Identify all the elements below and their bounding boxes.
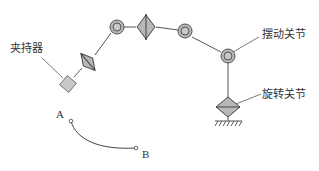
ground-icon bbox=[215, 121, 242, 126]
label-swing-joint: 摆动关节 bbox=[262, 27, 306, 41]
base-rotary-joint-icon bbox=[216, 97, 240, 117]
point-a-marker bbox=[69, 119, 73, 123]
label-gripper: 夹持器 bbox=[10, 41, 43, 55]
leader-gripper bbox=[42, 58, 63, 78]
link-gripper-wrist bbox=[74, 68, 82, 77]
label-rotary-joint: 旋转关节 bbox=[262, 87, 306, 101]
arm-links bbox=[74, 27, 228, 121]
link-diamond-joint2 bbox=[156, 27, 178, 30]
label-point-a: A bbox=[56, 108, 64, 120]
gripper-icon bbox=[60, 76, 77, 93]
rotary-joint-2-icon bbox=[137, 14, 155, 40]
label-point-b: B bbox=[142, 148, 149, 160]
swing-joint-3-icon bbox=[221, 49, 235, 63]
link-joint2-joint3 bbox=[192, 37, 221, 52]
robot-arm-diagram: 夹持器 摆动关节 旋转关节 A B bbox=[0, 0, 319, 171]
leader-swing-joint bbox=[233, 37, 259, 52]
leader-rotary-joint bbox=[236, 94, 261, 104]
trajectory-arc bbox=[69, 119, 138, 150]
swing-joint-2-icon bbox=[178, 24, 192, 38]
point-b-marker bbox=[134, 146, 138, 150]
link-wrist-joint1 bbox=[95, 33, 111, 55]
swing-joint-1-icon bbox=[110, 20, 124, 34]
